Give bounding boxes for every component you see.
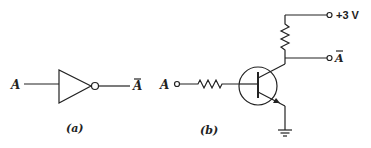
inverter-triangle-icon: [59, 70, 91, 103]
supply-terminal-icon: [327, 13, 332, 18]
supply-voltage-label: +3 V: [336, 9, 360, 21]
caption-a: (a): [66, 122, 84, 135]
output-a-bar-label: A: [132, 79, 142, 93]
inversion-bubble-icon: [92, 83, 99, 90]
figure-a: A A (a): [10, 70, 142, 135]
collector-lead: [258, 64, 285, 78]
output-a-bar-label-b: A: [334, 52, 344, 65]
inverter-diagram: A A (a) A +3 V A: [0, 0, 371, 148]
caption-b: (b): [200, 124, 218, 137]
input-a-label: A: [10, 78, 20, 92]
base-resistor-icon: [180, 80, 241, 88]
input-terminal-icon: [175, 82, 180, 87]
input-a-label-b: A: [159, 78, 169, 92]
figure-b: A +3 V A (b): [159, 9, 360, 137]
output-terminal-icon: [327, 56, 332, 61]
emitter-lead: [258, 92, 285, 106]
ground-icon: [278, 130, 292, 136]
collector-resistor-icon: [281, 15, 289, 58]
